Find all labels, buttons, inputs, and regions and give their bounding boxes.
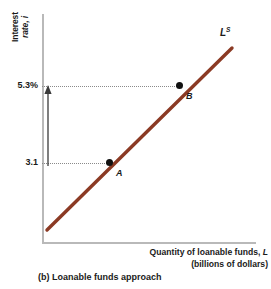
figure-caption: (b) Loanable funds approach bbox=[38, 272, 162, 282]
supply-curve-label-superscript: S bbox=[226, 26, 230, 33]
loanable-funds-chart-figure: Interest rate, i 5.3% 3.1 A B LS Quantit… bbox=[0, 0, 271, 289]
x-axis-variable-symbol: L bbox=[263, 247, 268, 257]
data-point-a-label: A bbox=[116, 168, 123, 178]
data-point-b-label: B bbox=[186, 91, 193, 101]
supply-curve-label: LS bbox=[220, 26, 230, 38]
data-point-b bbox=[176, 82, 183, 89]
data-point-a bbox=[106, 159, 113, 166]
x-axis-title: Quantity of loanable funds, L (billions … bbox=[120, 247, 268, 270]
x-axis-title-line1: Quantity of loanable funds, L bbox=[150, 247, 268, 257]
interest-rate-rise-arrow bbox=[40, 84, 60, 168]
x-axis-title-line2: (billions of dollars) bbox=[191, 259, 268, 269]
